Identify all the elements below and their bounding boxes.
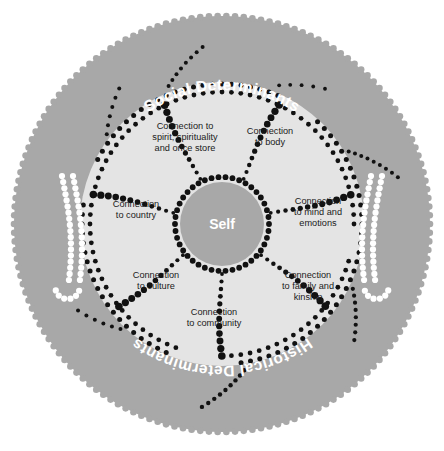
- scallop-bump: [291, 416, 298, 423]
- ring-dot: [334, 302, 339, 307]
- arrow-dot: [77, 216, 83, 222]
- ring-dot: [299, 327, 304, 332]
- arrow-dot: [66, 277, 72, 283]
- ring-dot: [88, 222, 93, 227]
- ring-dot: [335, 285, 340, 290]
- ring-dot: [343, 268, 348, 273]
- ring-dot: [334, 141, 339, 146]
- scallop-bump: [22, 152, 29, 159]
- ring-dot: [351, 268, 356, 273]
- scallop-bump: [275, 20, 282, 27]
- scallop-bump: [86, 381, 93, 388]
- scallop-bump: [73, 72, 80, 79]
- ring-dot: [111, 310, 116, 315]
- ring-dot: [133, 122, 138, 127]
- center-ring-dot: [190, 258, 196, 264]
- flourish-dot: [223, 388, 227, 392]
- scallop-bump: [415, 289, 422, 296]
- scallop-bump: [291, 26, 298, 33]
- scallop-bump: [358, 375, 365, 382]
- ring-dot: [105, 141, 110, 146]
- arrow-dot: [73, 191, 79, 197]
- arrow-dot: [359, 240, 365, 246]
- ring-dot: [104, 285, 109, 290]
- scallop-bump: [122, 405, 129, 412]
- arrow-dot: [67, 222, 73, 228]
- spoke-dot: [128, 295, 135, 302]
- scallop-bump: [364, 369, 371, 376]
- segment-label-spirit: Connection tospirit, spiritualityand onc…: [152, 122, 218, 154]
- flourish-dot: [228, 383, 232, 387]
- ring-dot: [348, 166, 353, 171]
- spoke-dot: [276, 210, 280, 214]
- spoke-dot: [217, 301, 222, 306]
- scallop-bump: [351, 60, 358, 67]
- scallop-bump: [67, 363, 74, 370]
- spoke-dot: [271, 108, 278, 115]
- scallop-bump: [56, 350, 63, 357]
- scallop-bump: [206, 13, 213, 20]
- arrow-dot: [370, 246, 376, 252]
- ring-dot: [328, 310, 333, 315]
- arrow-dot: [72, 185, 78, 191]
- ring-dot: [95, 286, 100, 291]
- scallop-bump: [427, 212, 434, 219]
- segment-label-community: Connectionto community: [187, 307, 242, 328]
- ring-dot: [117, 126, 122, 131]
- scallop-bump: [307, 33, 314, 40]
- ring-dot: [328, 133, 333, 138]
- flourish-dot: [117, 87, 121, 91]
- scallop-bump: [56, 92, 63, 99]
- segment-label-line: emotions: [299, 219, 337, 229]
- center-ring-dot: [230, 175, 236, 181]
- scallop-bump: [426, 238, 433, 245]
- scallop-bump: [29, 305, 36, 312]
- arrow-dot: [68, 259, 74, 265]
- scallop-bump: [376, 85, 383, 92]
- scallop-bump: [412, 144, 419, 151]
- scallop-bump: [351, 381, 358, 388]
- ring-dot: [88, 231, 93, 236]
- ring-dot: [117, 317, 122, 322]
- scallop-bump: [299, 412, 306, 419]
- scallop-bump: [107, 396, 114, 403]
- scallop-bump: [299, 29, 306, 36]
- scallop-bump: [15, 264, 22, 271]
- arrowhead-dot: [67, 296, 73, 302]
- spoke-dot: [252, 149, 257, 154]
- arrow-dot: [67, 271, 73, 277]
- center-ring-dot: [190, 184, 196, 190]
- segment-label-line: to body: [255, 137, 286, 147]
- flourish-dot: [372, 160, 376, 164]
- ring-dot: [173, 345, 178, 350]
- scallop-bump: [240, 14, 247, 21]
- scallop-bump: [427, 221, 434, 228]
- ring-dot: [315, 324, 320, 329]
- center-ring-dot: [230, 267, 236, 273]
- ring-dot: [331, 293, 336, 298]
- scallop-bump: [258, 425, 265, 432]
- arrow-dot: [359, 246, 365, 252]
- arrow-dot: [372, 277, 378, 283]
- ring-dot: [352, 222, 357, 227]
- arrow-dot: [361, 277, 367, 283]
- spoke-dot: [219, 279, 223, 283]
- arrow-dot: [75, 203, 81, 209]
- ring-dot: [111, 133, 116, 138]
- scallop-bump: [358, 66, 365, 73]
- flourish-dot: [352, 294, 356, 298]
- flourish-dot: [353, 330, 357, 334]
- arrow-dot: [360, 228, 366, 234]
- spoke-dot: [250, 156, 255, 161]
- arrow-dot: [78, 265, 84, 271]
- arrow-dot: [359, 259, 365, 265]
- center-ring-dot: [196, 262, 202, 268]
- scallop-bump: [405, 313, 412, 320]
- scallop-bump: [36, 121, 43, 128]
- flourish-dot: [323, 87, 327, 91]
- arrow-dot: [78, 271, 84, 277]
- scallop-bump: [405, 128, 412, 135]
- center-ring-dot: [264, 207, 270, 213]
- segment-label-line: to family and: [282, 282, 334, 292]
- arrow-dot: [364, 191, 370, 197]
